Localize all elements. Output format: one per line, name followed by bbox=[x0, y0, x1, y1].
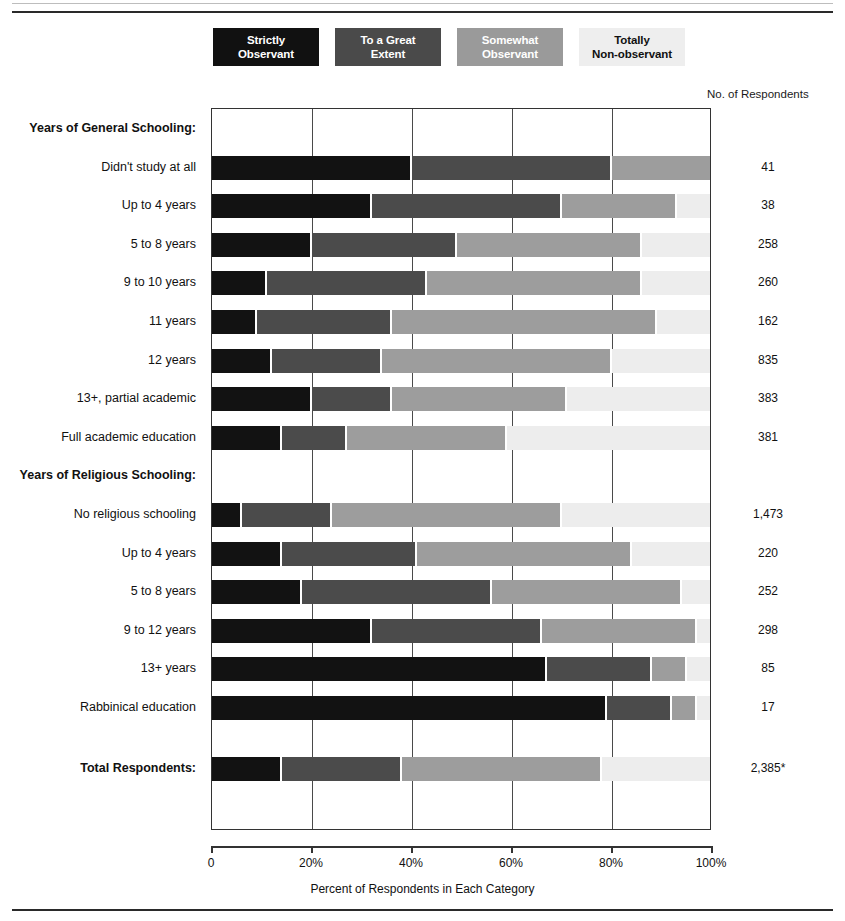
respondent-count: 835 bbox=[722, 342, 814, 378]
stacked-bar bbox=[212, 580, 712, 604]
chart-plot-area bbox=[211, 108, 711, 830]
stacked-bar bbox=[212, 156, 712, 180]
respondent-count: 17 bbox=[722, 689, 814, 725]
bar-segment-1 bbox=[312, 387, 390, 411]
respondent-count: 85 bbox=[722, 650, 814, 686]
x-axis-tick bbox=[711, 846, 713, 853]
bar-segment-3 bbox=[687, 657, 710, 681]
legend: Strictly Observant To a Great Extent Som… bbox=[213, 28, 685, 66]
bar-segment-0 bbox=[212, 387, 310, 411]
bar-segment-0 bbox=[212, 503, 240, 527]
respondent-count: 38 bbox=[722, 187, 814, 223]
legend-item-to-a-great-extent: To a Great Extent bbox=[335, 28, 441, 66]
bar-segment-2 bbox=[392, 310, 655, 334]
legend-label-line1: Totally bbox=[614, 34, 650, 46]
chart-row bbox=[212, 265, 710, 301]
top-ghost-rule bbox=[12, 3, 833, 4]
bar-segment-3 bbox=[697, 696, 710, 720]
legend-label-line2: Observant bbox=[238, 48, 294, 60]
respondent-count: 162 bbox=[722, 303, 814, 339]
bar-segment-2 bbox=[382, 349, 610, 373]
bar-segment-1 bbox=[267, 271, 425, 295]
chart-row bbox=[212, 613, 710, 649]
respondent-count: 381 bbox=[722, 419, 814, 455]
chart-row bbox=[212, 574, 710, 610]
x-axis-tick-label: 40% bbox=[399, 856, 423, 870]
bar-segment-3 bbox=[562, 503, 710, 527]
respondent-count: 260 bbox=[722, 264, 814, 300]
bar-segment-3 bbox=[567, 387, 710, 411]
group-heading: Years of Religious Schooling: bbox=[0, 457, 196, 493]
respondent-count: 258 bbox=[722, 226, 814, 262]
bar-segment-0 bbox=[212, 271, 265, 295]
bar-segment-1 bbox=[607, 696, 670, 720]
bar-segment-0 bbox=[212, 580, 300, 604]
stacked-bar bbox=[212, 271, 712, 295]
bar-segment-3 bbox=[602, 757, 710, 781]
bar-segment-2 bbox=[427, 271, 640, 295]
bar-segment-3 bbox=[642, 271, 710, 295]
x-axis-tick-label: 100% bbox=[696, 856, 727, 870]
stacked-bar bbox=[212, 619, 712, 643]
x-axis-line bbox=[211, 846, 711, 848]
legend-item-totally-non-observant: Totally Non-observant bbox=[579, 28, 685, 66]
respondent-count: 2,385* bbox=[722, 750, 814, 786]
respondent-count: 41 bbox=[722, 149, 814, 185]
row-label: Full academic education bbox=[0, 419, 196, 455]
x-axis-tick-label: 60% bbox=[499, 856, 523, 870]
bar-segment-1 bbox=[257, 310, 390, 334]
x-axis-tick bbox=[411, 846, 413, 853]
bar-segment-1 bbox=[547, 657, 650, 681]
stacked-bar bbox=[212, 757, 712, 781]
row-label: 5 to 8 years bbox=[0, 226, 196, 262]
chart-row bbox=[212, 651, 710, 687]
legend-item-somewhat-observant: Somewhat Observant bbox=[457, 28, 563, 66]
bar-segment-1 bbox=[302, 580, 490, 604]
bar-segment-3 bbox=[507, 426, 710, 450]
bar-segment-0 bbox=[212, 657, 545, 681]
stacked-bar bbox=[212, 387, 712, 411]
bar-segment-1 bbox=[282, 757, 400, 781]
stacked-bar bbox=[212, 194, 712, 218]
legend-label-line2: Non-observant bbox=[592, 48, 672, 60]
row-label: Total Respondents: bbox=[0, 750, 196, 786]
x-axis-tick bbox=[311, 846, 313, 853]
bar-segment-1 bbox=[242, 503, 330, 527]
bar-segment-1 bbox=[272, 349, 380, 373]
group-heading: Years of General Schooling: bbox=[0, 110, 196, 146]
bar-segment-2 bbox=[332, 503, 560, 527]
bar-segment-3 bbox=[642, 233, 710, 257]
row-label: 12 years bbox=[0, 342, 196, 378]
bar-segment-3 bbox=[677, 194, 710, 218]
row-label: 9 to 12 years bbox=[0, 612, 196, 648]
bar-segment-0 bbox=[212, 233, 310, 257]
bar-segment-2 bbox=[612, 156, 710, 180]
respondent-count: 220 bbox=[722, 535, 814, 571]
respondent-count: 298 bbox=[722, 612, 814, 648]
respondent-count: 1,473 bbox=[722, 496, 814, 532]
bar-segment-3 bbox=[632, 542, 710, 566]
chart-row bbox=[212, 536, 710, 572]
row-label: Up to 4 years bbox=[0, 187, 196, 223]
bar-segment-2 bbox=[492, 580, 680, 604]
row-label: No religious schooling bbox=[0, 496, 196, 532]
row-label: 13+, partial academic bbox=[0, 380, 196, 416]
bar-segment-0 bbox=[212, 757, 280, 781]
bar-segment-1 bbox=[412, 156, 610, 180]
chart-row bbox=[212, 497, 710, 533]
legend-label-line1: To a Great bbox=[360, 34, 415, 46]
legend-label-line1: Strictly bbox=[247, 34, 285, 46]
bar-segment-3 bbox=[682, 580, 710, 604]
row-label: Didn't study at all bbox=[0, 149, 196, 185]
bottom-rule bbox=[12, 909, 833, 911]
bar-segment-2 bbox=[542, 619, 695, 643]
chart-row bbox=[212, 304, 710, 340]
bar-segment-2 bbox=[392, 387, 565, 411]
stacked-bar bbox=[212, 310, 712, 334]
bar-segment-1 bbox=[282, 542, 415, 566]
bar-segment-1 bbox=[312, 233, 455, 257]
x-axis-tick bbox=[211, 846, 213, 853]
bar-segment-2 bbox=[457, 233, 640, 257]
bar-segment-2 bbox=[402, 757, 600, 781]
respondent-count: 252 bbox=[722, 573, 814, 609]
